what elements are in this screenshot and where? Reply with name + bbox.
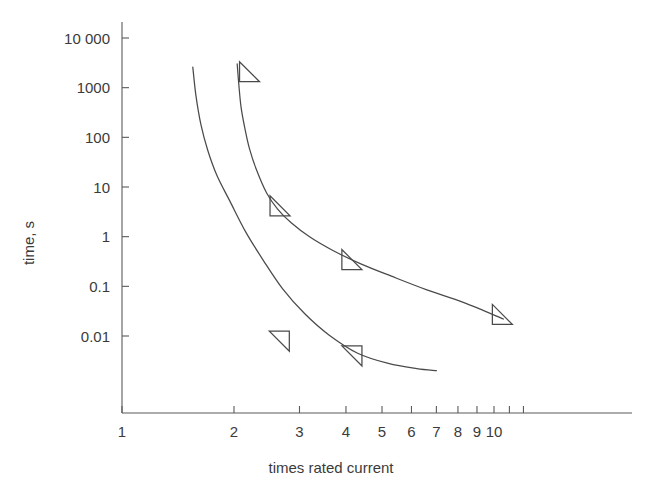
x-tick-label: 6	[407, 423, 415, 440]
x-tick-label: 1	[118, 423, 126, 440]
y-tick-label: 10	[93, 179, 110, 196]
y-tick-label: 0.01	[81, 328, 110, 345]
y-tick-label: 100	[85, 129, 110, 146]
x-tick-label: 8	[454, 423, 462, 440]
x-tick-label: 9	[473, 423, 481, 440]
x-tick-label: 3	[295, 423, 303, 440]
y-axis-title: time, s	[20, 221, 37, 265]
x-tick-label: 7	[432, 423, 440, 440]
x-tick-label: 10	[486, 423, 503, 440]
x-tick-label: 4	[342, 423, 350, 440]
y-tick-label: 1	[102, 228, 110, 245]
y-tick-label: 1000	[77, 79, 110, 96]
y-tick-label: 10 000	[64, 30, 110, 47]
chart-container: 10 00010001001010.10.01 12345678910 time…	[0, 0, 651, 498]
x-axis-title: times rated current	[268, 459, 394, 476]
time-current-characteristic-chart: 10 00010001001010.10.01 12345678910 time…	[0, 0, 651, 498]
x-tick-label: 5	[378, 423, 386, 440]
chart-background	[0, 0, 651, 498]
x-tick-label: 2	[230, 423, 238, 440]
y-tick-label: 0.1	[89, 278, 110, 295]
